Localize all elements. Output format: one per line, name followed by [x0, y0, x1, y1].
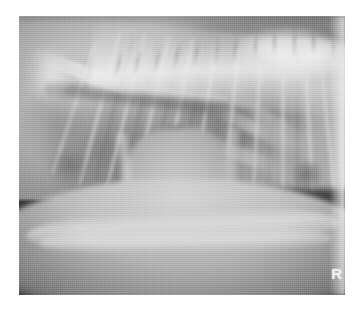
trachea-region — [45, 77, 229, 119]
focal-opacity-caudal — [293, 161, 322, 189]
rib-7 — [250, 49, 264, 200]
rib-2-interspace — [118, 37, 163, 185]
rib-3 — [132, 34, 173, 188]
caudal-vertebrae-region — [234, 19, 345, 80]
radiograph-viewer: R — [0, 0, 358, 314]
vertebra-11 — [312, 27, 316, 57]
vertebra-10 — [293, 27, 296, 57]
lung-caudodorsal-region — [182, 55, 325, 167]
vertebra-4 — [173, 41, 182, 71]
vertebra-12 — [331, 30, 336, 60]
collimation-edge-right — [329, 16, 345, 295]
cardiac-silhouette-region — [117, 122, 247, 256]
caudal-vena-cava-region — [208, 137, 286, 177]
diaphragm-region — [202, 139, 332, 251]
radiograph-image[interactable]: R — [19, 16, 345, 295]
lung-accessory-region — [189, 144, 287, 228]
carina-region — [162, 125, 191, 145]
rib-5-interspace — [204, 47, 235, 186]
lung-cranial-region — [39, 100, 182, 206]
cardiac-caudal-border — [216, 127, 242, 240]
rib-10 — [318, 61, 339, 200]
rib-9 — [302, 55, 316, 200]
film-base-exposure — [19, 16, 345, 295]
abdominal-soft-tissue-region — [260, 83, 345, 256]
rib-4-interspace — [175, 42, 212, 186]
rib-6 — [220, 47, 242, 197]
rib-2 — [104, 32, 149, 190]
rib-4 — [161, 36, 197, 191]
vertebra-8 — [253, 30, 258, 60]
focal-opacity-cranial — [52, 150, 88, 181]
shoulder-joint-region — [19, 44, 71, 105]
rib-11 — [50, 41, 99, 176]
rib-6-interspace — [233, 52, 257, 192]
rib-1 — [76, 29, 124, 187]
vertebra-1 — [113, 50, 123, 80]
sternum-region — [25, 204, 339, 254]
diaphragm-crus-line-a — [204, 98, 310, 159]
humerus-shadow-region — [19, 89, 84, 162]
rib-8-interspace — [293, 58, 302, 198]
ventral-body-wall-region — [19, 178, 345, 295]
trachea-wall — [45, 73, 227, 102]
caudal-vertebrae-highlight — [273, 33, 345, 78]
rib-cage-region — [19, 16, 345, 295]
vertebra-5 — [192, 38, 200, 68]
vertebral-body-ticks — [19, 16, 345, 295]
vertebra-6 — [213, 35, 220, 65]
diaphragm-crus-line-b — [220, 83, 314, 153]
rib-7-interspace — [263, 55, 279, 195]
film-grain-overlay — [19, 16, 345, 295]
thoracic-spine-region — [88, 18, 345, 119]
collimation-edge-top — [19, 16, 345, 24]
vertebra-7 — [233, 33, 239, 63]
vertebra-9 — [273, 27, 277, 57]
rib-1-interspace — [91, 34, 139, 182]
sternum-highlight — [38, 225, 332, 255]
scapula-region — [27, 47, 142, 100]
air-background-left-region — [19, 211, 110, 295]
cardiac-apex-region — [136, 211, 221, 256]
cardiac-cranial-border — [114, 133, 143, 240]
side-marker-r: R — [331, 266, 342, 281]
vertebra-3 — [153, 44, 162, 74]
rib-5 — [190, 42, 219, 192]
air-background-region — [19, 200, 345, 295]
air-background-right-region — [221, 189, 345, 295]
rib-8 — [280, 52, 286, 203]
vertebra-2 — [133, 47, 143, 77]
rib-3-interspace — [146, 39, 187, 182]
film-vignette — [19, 16, 345, 295]
